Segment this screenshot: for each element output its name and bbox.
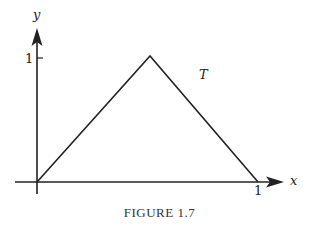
tent-curve	[37, 56, 258, 182]
y-tick-label: 1	[25, 52, 33, 65]
x-axis-label: x	[290, 174, 297, 187]
figure-canvas: y 1 T 1 x FIGURE 1.7	[0, 0, 319, 225]
figure-caption: FIGURE 1.7	[0, 205, 319, 221]
curve-label: T	[199, 68, 208, 81]
tent-map-plot	[0, 0, 319, 225]
y-axis-label: y	[33, 8, 40, 21]
x-tick-label: 1	[254, 184, 262, 197]
